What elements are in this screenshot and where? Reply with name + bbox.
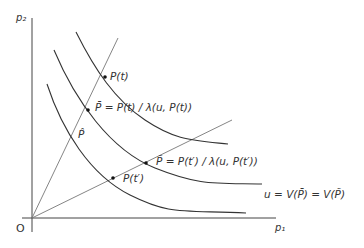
label-p-tprime: P(t′) [123, 172, 144, 184]
label-indifference: u = V(P̄) = V(P̃) [264, 188, 345, 200]
diagram-canvas: p₂ p₁ O P(t) P̄ = P(t) / λ(u, P(t)) P̂ P… [0, 0, 364, 248]
label-p-t: P(t) [110, 70, 129, 82]
label-p-tilde: P̃ = P(t′) / λ(u, P(t′)) [156, 155, 258, 167]
point-p-bar [86, 108, 90, 112]
point-p-tilde [144, 161, 148, 165]
point-p-t [103, 75, 107, 79]
origin-label: O [16, 222, 25, 235]
indifference-curve-outer [76, 32, 228, 144]
label-p-bar: P̄ = P(t) / λ(u, P(t)) [95, 101, 192, 113]
ray-p-tprime [32, 120, 232, 218]
label-p-hat: P̂ [78, 128, 84, 140]
point-p-tprime [111, 176, 115, 180]
y-axis-label: p₂ [16, 12, 26, 23]
ray-p-t [32, 38, 118, 218]
diagram-svg [0, 0, 364, 248]
x-axis-label: p₁ [275, 222, 285, 233]
